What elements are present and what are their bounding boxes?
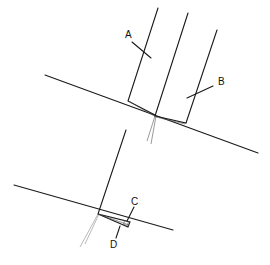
label-d-leader	[116, 226, 120, 238]
triangle-inner-line	[98, 214, 129, 225]
label-a: A	[125, 29, 132, 40]
lower-extension-2	[85, 214, 99, 244]
label-b: B	[218, 76, 225, 87]
label-a-leader	[132, 42, 151, 58]
lower-figure: C D	[14, 130, 173, 250]
upper-central-line	[155, 13, 188, 116]
lower-extension-1	[80, 214, 98, 247]
upper-figure: A B	[45, 8, 258, 153]
diagram-canvas: A B C D	[0, 0, 270, 265]
label-c: C	[131, 196, 138, 207]
upper-double-edge-left	[130, 102, 156, 117]
lower-vertical-line	[98, 130, 126, 214]
label-d: D	[110, 239, 117, 250]
region-a-boundary	[128, 8, 158, 115]
region-b-boundary	[155, 30, 217, 123]
lower-baseline	[14, 185, 173, 230]
label-b-leader	[187, 86, 213, 98]
upper-double-edge-right	[156, 117, 185, 124]
